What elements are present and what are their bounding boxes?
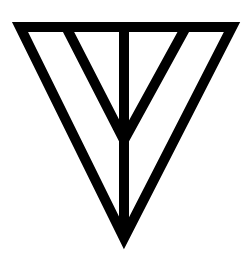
symbol-figure: Inverted triangle symbol with a central …	[0, 0, 248, 257]
inverted-triangle-icon	[0, 0, 248, 257]
